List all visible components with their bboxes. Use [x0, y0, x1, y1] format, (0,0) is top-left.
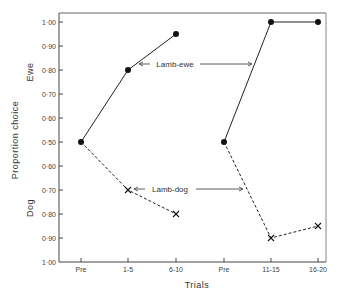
- data-point: [315, 19, 321, 25]
- plot-frame: [59, 13, 326, 262]
- y-tick-label: 1·00: [42, 19, 56, 26]
- series-lamb-dog: [81, 142, 321, 241]
- x-tick-label: 11-15: [262, 266, 279, 273]
- annotation-label: Lamb-ewe: [156, 60, 194, 69]
- x-tick-label: 1-5: [123, 266, 133, 273]
- y-axis-title: Proportion choice: [10, 101, 20, 180]
- x-tick-label: 16-20: [309, 266, 327, 273]
- y-tick-label: 1·00: [42, 259, 56, 266]
- x-tick-label: Pre: [76, 266, 87, 273]
- y-tick-label: 0·70: [42, 91, 56, 98]
- y-tick-label: 0·50: [42, 139, 56, 146]
- y-tick-label: 0·90: [42, 235, 56, 242]
- y-axis-dog-label: Dog: [25, 199, 35, 217]
- y-axis: 1·00 0·90 0·80 0·70 0·60 0·50 0·60 0·70 …: [42, 19, 63, 266]
- y-tick-label: 0·60: [42, 163, 56, 170]
- x-axis-title: Trials: [185, 280, 210, 290]
- x-tick-label: Pre: [219, 266, 230, 273]
- annotation-lamb-dog: Lamb-dog: [134, 185, 243, 194]
- data-point: [268, 19, 274, 25]
- x-tick-label: 6-10: [169, 266, 183, 273]
- y-tick-label: 0·90: [42, 43, 56, 50]
- y-axis-ewe-label: Ewe: [25, 62, 35, 81]
- series-lamb-ewe: [78, 19, 321, 145]
- x-axis: Pre 1-5 6-10 Pre 11-15 16-20: [76, 258, 328, 273]
- annotation-lamb-ewe: Lamb-ewe: [139, 60, 252, 69]
- y-tick-label: 0·60: [42, 115, 56, 122]
- chart: 1·00 0·90 0·80 0·70 0·60 0·50 0·60 0·70 …: [0, 0, 339, 296]
- data-point: [173, 31, 179, 37]
- y-tick-label: 0·80: [42, 67, 56, 74]
- y-tick-label: 0·70: [42, 187, 56, 194]
- data-point: [125, 67, 131, 73]
- annotation-label: Lamb-dog: [152, 185, 188, 194]
- y-tick-label: 0·80: [42, 211, 56, 218]
